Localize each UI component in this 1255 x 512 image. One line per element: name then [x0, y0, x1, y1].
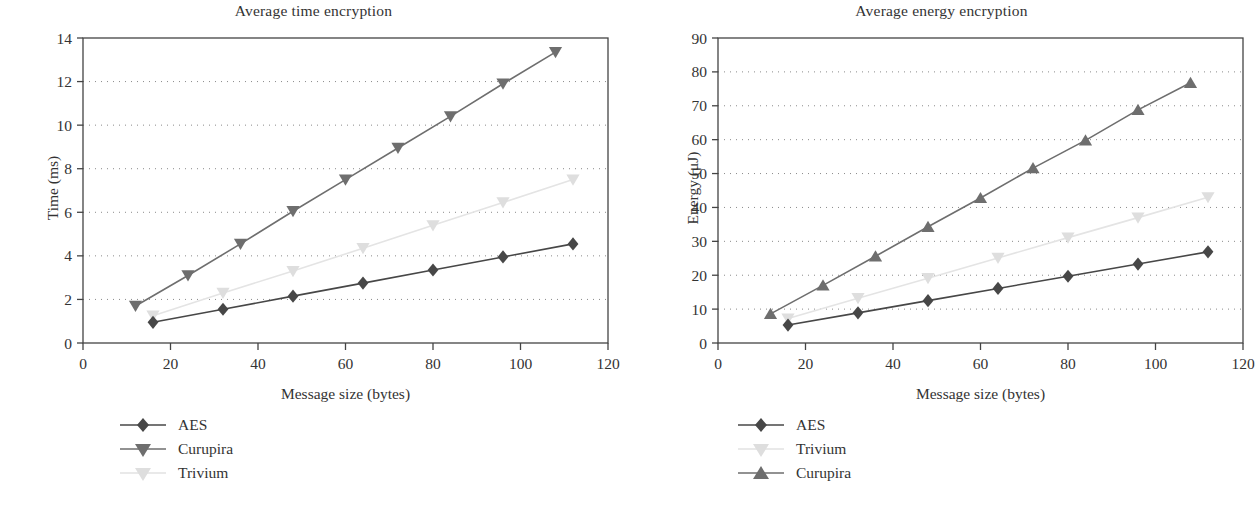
- svg-text:80: 80: [692, 63, 708, 80]
- x-axis-label-energy: Message size (bytes): [861, 385, 1101, 403]
- y-axis-label-energy: Energy (μJ): [684, 151, 702, 224]
- legend-item[interactable]: Curupira: [736, 461, 851, 485]
- legend-item[interactable]: AES: [118, 413, 233, 437]
- svg-text:10: 10: [692, 301, 708, 318]
- legend-item[interactable]: Trivium: [118, 461, 233, 485]
- plot-svg-time: 02468101214020406080100120: [0, 0, 627, 400]
- svg-text:100: 100: [1144, 355, 1168, 372]
- legend-label: Trivium: [168, 464, 228, 482]
- legend-label: AES: [168, 416, 207, 434]
- legend-symbol-diamond-icon: [118, 414, 168, 436]
- legend-item[interactable]: Curupira: [118, 437, 233, 461]
- svg-text:20: 20: [163, 355, 179, 372]
- svg-text:30: 30: [692, 233, 708, 250]
- svg-text:20: 20: [692, 267, 708, 284]
- chart-panel-time: Average time encryption 0246810121402040…: [0, 0, 627, 512]
- svg-text:80: 80: [1060, 355, 1076, 372]
- svg-text:0: 0: [64, 335, 72, 352]
- svg-text:20: 20: [798, 355, 814, 372]
- svg-text:60: 60: [692, 131, 708, 148]
- svg-text:6: 6: [64, 204, 72, 221]
- svg-text:80: 80: [425, 355, 441, 372]
- x-axis-label-time: Message size (bytes): [226, 385, 466, 403]
- svg-text:0: 0: [714, 355, 722, 372]
- svg-text:120: 120: [596, 355, 620, 372]
- legend-time: AES Curupira Trivium: [118, 413, 233, 485]
- svg-text:0: 0: [699, 335, 707, 352]
- svg-text:4: 4: [64, 247, 72, 264]
- svg-text:40: 40: [885, 355, 901, 372]
- legend-symbol-diamond-icon: [736, 414, 786, 436]
- legend-item[interactable]: Trivium: [736, 437, 851, 461]
- svg-text:8: 8: [64, 160, 72, 177]
- y-axis-label-time: Time (ms): [44, 155, 62, 219]
- legend-label: Curupira: [168, 440, 233, 458]
- svg-text:10: 10: [57, 117, 73, 134]
- svg-text:14: 14: [57, 30, 73, 47]
- legend-label: Trivium: [786, 440, 846, 458]
- svg-text:0: 0: [79, 355, 87, 372]
- legend-item[interactable]: AES: [736, 413, 851, 437]
- svg-text:60: 60: [973, 355, 989, 372]
- plot-area-time: 02468101214020406080100120: [0, 0, 627, 512]
- svg-text:2: 2: [64, 291, 72, 308]
- svg-text:12: 12: [57, 73, 73, 90]
- svg-text:60: 60: [338, 355, 354, 372]
- svg-text:40: 40: [250, 355, 266, 372]
- svg-text:120: 120: [1231, 355, 1255, 372]
- legend-energy: AES Trivium Curupira: [736, 413, 851, 485]
- svg-text:70: 70: [692, 97, 708, 114]
- figure-root: Average time encryption 0246810121402040…: [0, 0, 1255, 512]
- svg-text:90: 90: [692, 30, 708, 47]
- legend-label: AES: [786, 416, 825, 434]
- svg-text:100: 100: [509, 355, 533, 372]
- plot-area-energy: 0102030405060708090020406080100120: [628, 0, 1255, 512]
- legend-symbol-triangle-down-icon: [118, 462, 168, 484]
- plot-svg-energy: 0102030405060708090020406080100120: [628, 0, 1255, 400]
- legend-symbol-triangle-down-icon: [736, 438, 786, 460]
- legend-symbol-triangle-up-icon: [736, 462, 786, 484]
- legend-symbol-triangle-down-icon: [118, 438, 168, 460]
- chart-panel-energy: Average energy encryption 01020304050607…: [628, 0, 1255, 512]
- legend-label: Curupira: [786, 464, 851, 482]
